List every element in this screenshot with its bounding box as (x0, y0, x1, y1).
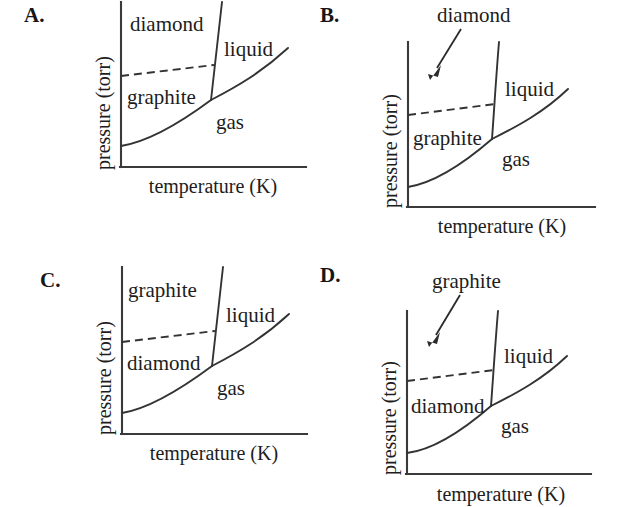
panel-a: A. pressure (torr) diamond graphite liqu… (0, 0, 316, 253)
panel-b: B. pressure (torr) diamond graphite liqu… (316, 0, 633, 253)
panel-c-solid-liquid-boundary (212, 267, 223, 366)
panel-d-label-upper-solid: graphite (432, 269, 501, 293)
panel-b-solid-liquid-boundary (492, 42, 499, 139)
panel-b-pointer-arrow-icon (428, 65, 441, 80)
panel-c-label-gas: gas (217, 376, 245, 400)
panel-c-solid-solid-boundary (122, 331, 215, 342)
panel-a-diagram: pressure (torr) diamond graphite liquid … (0, 0, 316, 253)
panel-d-label-gas: gas (501, 414, 529, 438)
panel-d-y-axis-label: pressure (torr) (378, 361, 401, 475)
panel-b-pointer-line (437, 29, 461, 68)
panel-d-pointer-arrow-icon (427, 332, 440, 347)
panel-b-solid-solid-boundary (408, 104, 495, 115)
panel-a-solid-liquid-boundary (211, 2, 222, 100)
panel-b-label-upper-solid: diamond (437, 3, 511, 27)
panel-d-diagram: pressure (torr) graphite diamond liquid … (316, 253, 633, 507)
panel-a-label-liquid: liquid (224, 37, 274, 61)
panel-b-label-gas: gas (502, 147, 530, 171)
panel-c-y-axis-label: pressure (torr) (93, 321, 116, 435)
panel-b-diagram: pressure (torr) diamond graphite liquid … (316, 0, 633, 253)
panel-c-x-axis-label: temperature (K) (150, 442, 278, 465)
panel-d-solid-solid-boundary (407, 370, 494, 381)
panel-a-x-axis-label: temperature (K) (149, 175, 277, 198)
panel-b-y-axis-label: pressure (torr) (379, 94, 402, 208)
panel-d: D. pressure (torr) graphite diamond liqu… (316, 253, 633, 507)
panel-d-label-liquid: liquid (504, 344, 554, 368)
panel-d-pointer-line (436, 295, 460, 335)
panel-d-solid-liquid-boundary (491, 311, 498, 406)
panel-c-label-lower-solid: diamond (127, 351, 201, 375)
panel-b-label-liquid: liquid (505, 77, 555, 101)
panel-c-label-upper-solid: graphite (128, 278, 197, 302)
phase-diagram-figure: A. pressure (torr) diamond graphite liqu… (0, 0, 633, 507)
panel-a-label-gas: gas (216, 110, 244, 134)
panel-a-label-lower-solid: graphite (127, 85, 196, 109)
panel-a-y-axis-label: pressure (torr) (92, 56, 115, 170)
panel-d-x-axis-label: temperature (K) (437, 483, 565, 506)
panel-d-label-lower-solid: diamond (411, 394, 485, 418)
panel-a-solid-solid-boundary (121, 65, 214, 76)
panel-c: C. pressure (torr) graphite diamond liqu… (0, 253, 316, 507)
panel-c-label-liquid: liquid (226, 303, 276, 327)
panel-b-label-lower-solid: graphite (413, 126, 482, 150)
panel-a-label-upper-solid: diamond (130, 12, 204, 36)
panel-b-x-axis-label: temperature (K) (438, 215, 566, 238)
panel-c-diagram: pressure (torr) graphite diamond liquid … (0, 253, 316, 507)
